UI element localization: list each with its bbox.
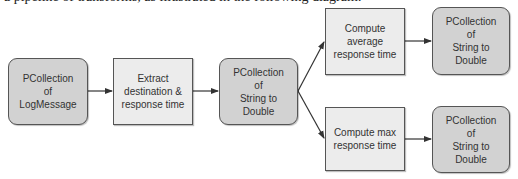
node-extract-destination: Extract destination & response time (113, 58, 193, 125)
node-label: Extract destination & response time (122, 72, 185, 111)
node-label: Compute max response time (334, 126, 397, 152)
node-pcollection-average-output: PCollection of String to Double (432, 7, 510, 75)
node-compute-max: Compute max response time (325, 107, 405, 171)
node-pcollection-logmessage: PCollection of LogMessage (8, 58, 88, 125)
node-label: Compute average response time (334, 22, 397, 61)
node-pcollection-max-output: PCollection of String to Double (432, 106, 510, 173)
edge-n3-n6 (298, 91, 324, 138)
node-label: PCollection of String to Double (233, 66, 284, 118)
node-label: PCollection of String to Double (446, 114, 497, 166)
node-label: PCollection of LogMessage (19, 72, 76, 111)
node-pcollection-string-double: PCollection of String to Double (219, 58, 298, 125)
node-label: PCollection of String to Double (446, 15, 497, 67)
edge-n3-n4 (298, 42, 324, 91)
node-compute-average: Compute average response time (325, 8, 405, 75)
